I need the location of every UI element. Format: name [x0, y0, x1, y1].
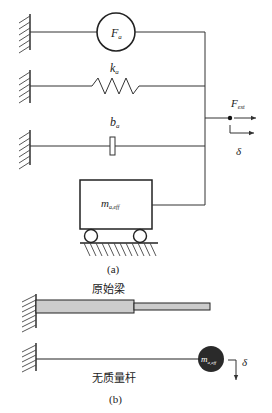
wall-ground-icon: [19, 130, 30, 169]
wheel-icon: [134, 230, 147, 243]
original-beam-label: 原始梁: [92, 282, 125, 296]
displacement-label: δ: [242, 356, 248, 368]
original-beam-thick-section: [36, 300, 134, 313]
damper-label: ba: [110, 115, 120, 130]
displacement-label: δ: [236, 145, 242, 157]
damper-icon: [30, 137, 205, 155]
figure-a: Fa ka ba: [19, 13, 256, 276]
output-force-label: Fext: [230, 97, 245, 110]
figure-a-caption: (a): [107, 263, 120, 276]
displacement-arrow-icon: [228, 360, 236, 380]
figure-b: 原始梁 ma,eff δ 无质量杆 (b): [22, 282, 248, 406]
figure-b-caption: (b): [109, 393, 122, 406]
spring-label: ka: [110, 61, 119, 76]
wall-ground-icon: [19, 70, 30, 103]
wall-ground-icon: [22, 294, 36, 332]
diagram-canvas: Fa ka ba: [0, 0, 272, 413]
original-beam-thin-section: [134, 303, 210, 310]
spring-icon: [30, 78, 205, 94]
massless-rod-label: 无质量杆: [92, 371, 136, 385]
wall-ground-icon: [19, 14, 30, 53]
ground-hatch-icon: [80, 243, 158, 256]
wall-ground-icon: [22, 343, 36, 372]
wheel-icon: [85, 230, 98, 243]
displacement-arrow-icon: [230, 125, 254, 133]
output-node-icon: [228, 116, 232, 120]
